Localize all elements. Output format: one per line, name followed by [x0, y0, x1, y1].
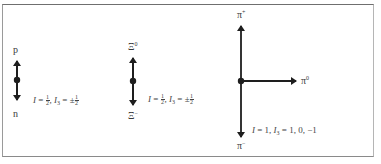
nucleon-isospin-equation: I = 12, I3 = ±12	[33, 94, 79, 106]
label-pi-plus: π+	[237, 10, 245, 20]
pion-triplet-arrows	[238, 26, 296, 137]
label-xi-zero: Ξ0	[128, 42, 137, 52]
label-pi-minus: π−	[237, 141, 245, 151]
nucleon-doublet-arrows	[14, 61, 20, 100]
label-xi-minus: Ξ−	[128, 111, 138, 121]
pion-isospin-equation: I = 1, I3 = 1, 0, −1	[252, 124, 317, 136]
label-pi-zero: π0	[301, 76, 309, 86]
origin-dot-icon	[238, 78, 244, 84]
xi-doublet-arrows	[130, 58, 136, 105]
label-neutron: n	[13, 109, 18, 119]
multiplet-arrows	[0, 0, 381, 164]
origin-dot-icon	[130, 78, 136, 84]
xi-isospin-equation: I = 12, I3 = ±12	[148, 93, 194, 105]
origin-dot-icon	[14, 77, 20, 83]
label-proton: p	[13, 45, 18, 55]
